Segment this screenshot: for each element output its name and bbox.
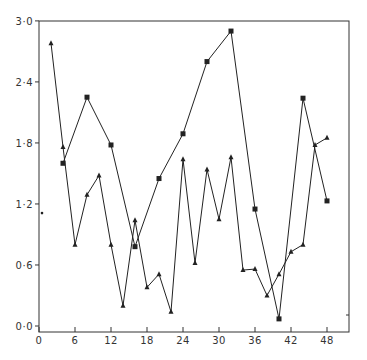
triangle-marker [217, 216, 222, 221]
x-tick-label: 30 [212, 335, 226, 346]
series-isolated-point [41, 212, 44, 215]
x-tick-label: 12 [104, 335, 118, 346]
x-tick-label: 0 [36, 335, 43, 346]
triangle-marker [73, 242, 78, 247]
y-tick-label: 3·0 [16, 16, 33, 27]
plot-border [39, 21, 349, 332]
plot-frame [39, 21, 349, 332]
series-line [63, 31, 327, 319]
triangle-marker [205, 166, 210, 171]
triangle-marker [61, 144, 66, 149]
square-marker [229, 29, 234, 34]
triangle-marker [325, 135, 330, 140]
x-axis: 0612182430364248 [36, 327, 334, 346]
y-tick-label: 2·4 [16, 77, 33, 88]
y-tick-label: 0·0 [16, 321, 33, 332]
line-chart: 0·00·61·21·82·43·0 0612182430364248 [0, 0, 367, 360]
x-tick-label: 24 [176, 335, 190, 346]
square-marker [109, 142, 114, 147]
data-series [41, 29, 330, 322]
triangle-marker [49, 40, 54, 45]
square-marker [61, 161, 66, 166]
square-marker [253, 207, 258, 212]
y-axis: 0·00·61·21·82·43·0 [16, 16, 39, 332]
square-marker [277, 316, 282, 321]
triangle-marker [193, 260, 198, 265]
series-squares [61, 29, 330, 322]
x-tick-label: 42 [284, 335, 298, 346]
y-tick-label: 1·8 [16, 138, 33, 149]
triangle-marker [109, 242, 114, 247]
series-line [51, 43, 327, 311]
square-marker [181, 131, 186, 136]
square-marker [325, 198, 330, 203]
dot-marker [41, 212, 44, 215]
square-marker [205, 59, 210, 64]
y-tick-label: 1·2 [16, 199, 33, 210]
triangle-marker [181, 156, 186, 161]
square-marker [85, 95, 90, 100]
x-tick-label: 6 [72, 335, 79, 346]
triangle-marker [229, 154, 234, 159]
triangle-marker [253, 266, 258, 271]
triangle-marker [301, 242, 306, 247]
triangle-marker [97, 172, 102, 177]
triangle-marker [169, 309, 174, 314]
x-tick-label: 48 [320, 335, 334, 346]
square-marker [157, 176, 162, 181]
triangle-marker [133, 217, 138, 222]
x-tick-label: 18 [140, 335, 154, 346]
x-tick-label: 36 [248, 335, 262, 346]
triangle-marker [157, 271, 162, 276]
y-tick-label: 0·6 [16, 260, 33, 271]
square-marker [301, 96, 306, 101]
triangle-marker [121, 303, 126, 308]
square-marker [133, 244, 138, 249]
series-triangles [49, 40, 330, 313]
